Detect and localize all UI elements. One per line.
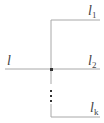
ellipsis-dot	[50, 100, 52, 102]
label-l1: l1	[88, 4, 96, 22]
label-l2: l2	[88, 54, 96, 72]
junction-node	[50, 68, 53, 71]
ellipsis-dot	[50, 95, 52, 97]
label-lk: lk	[90, 101, 98, 119]
ellipsis-dot	[50, 90, 52, 92]
branching-diagram: l1 l l2 lk	[0, 0, 104, 123]
label-l: l	[7, 54, 11, 68]
